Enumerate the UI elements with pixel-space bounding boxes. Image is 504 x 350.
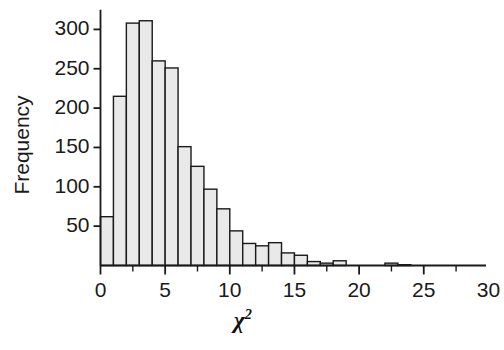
x-tick-label: 10 xyxy=(208,278,252,302)
x-tick-group xyxy=(101,266,487,275)
y-tick-label: 300 xyxy=(54,16,89,40)
histogram-bar xyxy=(139,21,152,266)
y-tick-label: 250 xyxy=(54,56,89,80)
histogram-bar xyxy=(217,209,230,266)
y-tick-label: 150 xyxy=(54,134,89,158)
y-tick-label: 100 xyxy=(54,174,89,198)
histogram-bar xyxy=(282,253,295,266)
histogram-bar xyxy=(269,243,282,266)
histogram-bar xyxy=(243,243,256,265)
histogram-bar xyxy=(165,68,178,266)
histogram-bar xyxy=(126,23,139,265)
x-tick-label: 15 xyxy=(272,278,316,302)
y-tick-group xyxy=(94,29,101,226)
y-tick-label: 200 xyxy=(54,95,89,119)
x-tick-label: 5 xyxy=(143,278,187,302)
x-tick-label: 30 xyxy=(466,278,504,302)
y-tick-label: 50 xyxy=(66,213,89,237)
x-tick-label: 0 xyxy=(79,278,123,302)
histogram-bar xyxy=(256,246,269,266)
x-tick-label: 20 xyxy=(337,278,381,302)
bar-group xyxy=(101,21,411,266)
histogram-bar xyxy=(101,217,114,266)
histogram-bar xyxy=(294,255,307,265)
histogram-bar xyxy=(178,147,191,266)
histogram-bar xyxy=(152,61,165,266)
x-tick-label: 25 xyxy=(402,278,446,302)
histogram-bar xyxy=(204,189,217,265)
histogram-bar xyxy=(113,96,126,265)
histogram-bar xyxy=(230,231,243,266)
histogram-bar xyxy=(191,166,204,265)
